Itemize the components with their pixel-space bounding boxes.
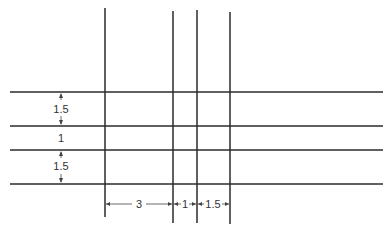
column-dimension-1: 3 [106,198,172,210]
column-dimension-2: 1 [174,198,196,210]
column-dimension-label-1: 3 [136,198,142,210]
row-dimension-label-2: 1 [58,132,64,144]
column-dimension-label-2: 1 [182,198,188,210]
column-dimension-label-3: 1.5 [205,198,220,210]
row-dimension-2: 1 [58,132,64,144]
grid-diagram: 1.5 1 1.5 3 1 1.5 [0,0,389,230]
column-dimension-3: 1.5 [198,198,229,210]
row-dimension-label-3: 1.5 [53,160,68,172]
row-dimension-label-1: 1.5 [53,103,68,115]
row-dimension-1: 1.5 [53,93,68,125]
row-dimension-3: 1.5 [53,151,68,183]
